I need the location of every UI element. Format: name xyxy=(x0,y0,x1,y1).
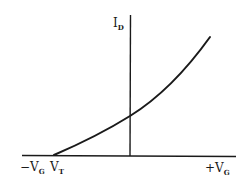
threshold-voltage-label: VT xyxy=(50,161,64,175)
transfer-curve-diagram: ID −VG VT +VG xyxy=(0,0,248,186)
y-axis-label: ID xyxy=(113,17,124,31)
x-axis-positive-label: +VG xyxy=(205,162,230,176)
x-axis-negative-label: −VG xyxy=(20,161,45,175)
y-axis xyxy=(130,15,131,156)
diagram-graphics xyxy=(0,0,248,186)
drain-current-curve xyxy=(54,37,210,155)
